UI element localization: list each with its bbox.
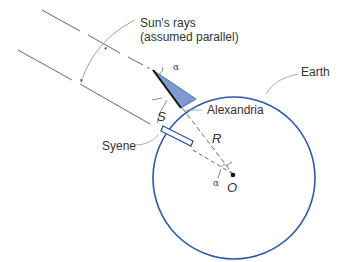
eratosthenes-diagram: Sun's rays (assumed parallel) Earth Alex…	[0, 0, 341, 262]
arrowhead	[104, 47, 107, 50]
center-label-o: O	[227, 180, 237, 195]
arc-label-s: S	[157, 109, 166, 124]
earth-leader	[266, 74, 298, 94]
center-point	[231, 173, 236, 178]
syene-leader	[135, 135, 158, 145]
rays-label: Sun's rays	[140, 16, 196, 30]
sun-ray-upper	[42, 10, 152, 70]
gnomon-shadow	[153, 70, 196, 108]
syene-to-center-line	[193, 150, 233, 174]
alexandria-label: Alexandria	[207, 103, 264, 117]
alpha-center-pointer	[218, 169, 221, 178]
syene-label: Syene	[102, 139, 136, 153]
earth-label: Earth	[301, 65, 330, 79]
syene-well	[161, 126, 193, 146]
alpha-label-top: α	[173, 62, 179, 72]
rays-dimension-arc	[81, 20, 135, 82]
angle-arc-top	[160, 67, 163, 74]
arc-s-tick	[152, 98, 162, 100]
radius-label-r: R	[212, 131, 221, 146]
sun-ray-lower	[18, 50, 150, 124]
alpha-label-center: α	[213, 178, 219, 188]
earth-circle	[153, 97, 315, 259]
alpha-center-pointer2	[226, 162, 232, 166]
rays-note-label: (assumed parallel)	[140, 30, 239, 44]
